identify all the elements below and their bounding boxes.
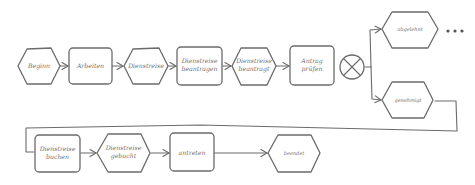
arrow-xor-abgelehnt: [370, 29, 381, 67]
event-genehmigt: genehmigt: [382, 82, 433, 118]
event-beendet-label: beendet: [284, 150, 305, 156]
function-antrag-pruefen: Antrag prüfen: [290, 46, 334, 85]
function-beantragen-label-1: Dienstreise: [181, 57, 218, 64]
event-beginn-label: Beginn: [27, 62, 50, 70]
function-dienstreise-buchen: Dienstreise buchen: [35, 135, 80, 172]
function-dienstreise-beantragen: Dienstreise beantragen: [177, 47, 222, 85]
event-beginn: Beginn: [18, 48, 60, 84]
event-abgelehnt-label: abgelehnt: [397, 26, 423, 33]
xor-connector: [340, 55, 364, 79]
event-beantragt-label-1: Dienstreise: [235, 57, 272, 64]
function-arbeiten-label: Arbeiten: [76, 62, 104, 69]
continuation-dots: [446, 29, 463, 32]
function-antreten-label: antreten: [179, 149, 206, 156]
event-dienstreise: Dienstreise: [124, 48, 168, 84]
function-pruefen-label-1: Antrag: [300, 57, 323, 65]
event-beendet: beendet: [268, 135, 320, 172]
event-beantragt-label-2: beantragt: [239, 65, 270, 73]
event-dienstreise-beantragt: Dienstreise beantragt: [232, 48, 276, 85]
event-dienstreise-label: Dienstreise: [127, 62, 164, 69]
event-dienstreise-gebucht: Dienstreise gebucht: [97, 134, 150, 172]
function-buchen-label-2: buchen: [46, 153, 69, 160]
event-gebucht-label-1: Dienstreise: [105, 144, 142, 151]
event-abgelehnt: abgelehnt: [382, 12, 438, 48]
event-gebucht-label-2: gebucht: [111, 152, 137, 160]
function-pruefen-label-2: prüfen: [302, 65, 323, 73]
epc-diagram: Beginn Arbeiten Dienstreise Dienstreise …: [0, 0, 475, 185]
function-buchen-label-1: Dienstreise: [39, 145, 76, 152]
arrow-xor-genehmigt: [371, 67, 381, 100]
event-genehmigt-label: genehmigt: [394, 97, 422, 104]
function-beantragen-label-2: beantragen: [181, 65, 217, 73]
function-arbeiten: Arbeiten: [69, 48, 112, 84]
function-antreten: antreten: [170, 133, 214, 171]
